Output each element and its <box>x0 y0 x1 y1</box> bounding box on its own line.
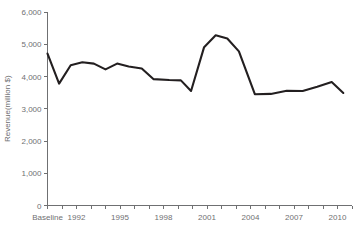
y-tick-labels: 6,0005,0004,0003,0002,0001,0000 <box>21 8 42 211</box>
y-tick-label: 6,000 <box>21 8 42 17</box>
y-axis-title-group: Revenue(million $) <box>3 75 12 142</box>
x-tick-label: 2004 <box>242 213 260 222</box>
y-tick-label: 3,000 <box>21 105 42 114</box>
y-tick-label: 2,000 <box>21 137 42 146</box>
x-axis-group: Baseline1992199519982001200420072010 <box>32 206 352 222</box>
x-tick-label: Baseline <box>32 213 63 222</box>
chart-canvas: 6,0005,0004,0003,0002,0001,0000 Baseline… <box>0 0 356 231</box>
x-tick-label: 1995 <box>111 213 129 222</box>
y-tick-label: 4,000 <box>21 73 42 82</box>
x-tick-label: 1998 <box>155 213 173 222</box>
y-tick-label: 5,000 <box>21 40 42 49</box>
x-tick-marks <box>48 206 353 210</box>
revenue-series-line <box>48 35 344 94</box>
y-axis-title: Revenue(million $) <box>3 75 12 142</box>
series-group <box>48 35 344 94</box>
x-tick-label: 1992 <box>68 213 86 222</box>
y-tick-label: 0 <box>37 202 42 211</box>
y-axis-group: 6,0005,0004,0003,0002,0001,0000 <box>21 8 47 211</box>
x-tick-label: 2010 <box>329 213 347 222</box>
y-tick-label: 1,000 <box>21 169 42 178</box>
x-tick-label: 2001 <box>198 213 216 222</box>
y-tick-marks <box>44 12 48 206</box>
x-tick-labels: Baseline1992199519982001200420072010 <box>32 213 347 222</box>
revenue-line-chart: 6,0005,0004,0003,0002,0001,0000 Baseline… <box>0 0 356 231</box>
x-tick-label: 2007 <box>285 213 303 222</box>
